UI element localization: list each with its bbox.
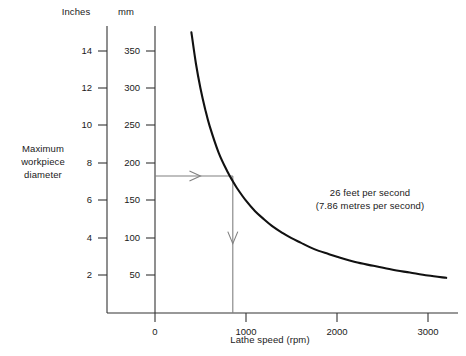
inches-axis: [98, 26, 107, 313]
mm-axis-header: mm: [108, 6, 144, 18]
annotation-line-2: (7.86 metres per second): [290, 199, 450, 212]
mm-tick-label: 350: [110, 45, 140, 56]
x-tick-label: 3000: [408, 326, 448, 337]
inches-tick-label: 4: [66, 232, 92, 243]
x-axis-label: Lathe speed (rpm): [205, 334, 335, 346]
mm-tick-label: 150: [110, 194, 140, 205]
inches-tick-label: 6: [66, 194, 92, 205]
mm-tick-label: 100: [110, 232, 140, 243]
inches-tick-label: 12: [66, 82, 92, 93]
y-axis-label-line-1: Maximum: [4, 142, 82, 155]
curve-annotation: 26 feet per second (7.86 metres per seco…: [290, 186, 450, 212]
inches-tick-label: 2: [66, 269, 92, 280]
guide-arrows: [155, 171, 238, 313]
data-curve: [191, 32, 446, 278]
y-axis-label-line-3: diameter: [4, 168, 82, 181]
x-tick-label: 0: [135, 326, 175, 337]
annotation-line-1: 26 feet per second: [290, 186, 450, 199]
inches-tick-label: 8: [66, 157, 92, 168]
chart-container: Inches mm Maximum workpiece diameter Lat…: [0, 0, 466, 356]
inches-tick-label: 14: [66, 45, 92, 56]
inches-tick-label: 10: [66, 119, 92, 130]
inches-axis-header: Inches: [52, 6, 100, 18]
x-tick-label: 2000: [317, 326, 357, 337]
mm-tick-label: 250: [110, 119, 140, 130]
mm-axis: [146, 26, 155, 313]
mm-tick-label: 50: [110, 269, 140, 280]
x-tick-label: 1000: [226, 326, 266, 337]
mm-tick-label: 200: [110, 157, 140, 168]
x-axis: [107, 313, 458, 322]
mm-tick-label: 300: [110, 82, 140, 93]
